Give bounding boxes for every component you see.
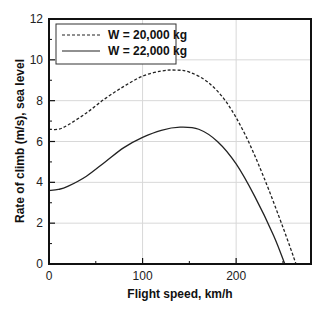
y-tick-label: 10 [30, 53, 44, 67]
x-tick-label: 100 [133, 269, 153, 283]
x-tick-label: 0 [46, 269, 53, 283]
y-tick-label: 8 [36, 94, 43, 108]
legend: W = 20,000 kg W = 22,000 kg [56, 24, 187, 64]
x-axis-title: Flight speed, km/h [127, 287, 232, 301]
legend-label-20000: W = 20,000 kg [108, 28, 187, 42]
y-tick-label: 4 [36, 175, 43, 189]
y-axis-title: Rate of climb (m/s), sea level [13, 59, 27, 223]
y-tick-label: 6 [36, 135, 43, 149]
series-line-20000kg [49, 70, 296, 264]
y-tick-label: 12 [30, 12, 44, 26]
x-tick-label: 200 [226, 269, 246, 283]
y-tick-label: 2 [36, 216, 43, 230]
y-tick-label: 0 [36, 257, 43, 271]
legend-label-22000: W = 22,000 kg [108, 44, 187, 58]
rate-of-climb-chart: 0246810120100200 W = 20,000 kg W = 22,00… [0, 0, 323, 309]
series-lines [49, 70, 296, 264]
series-line-22000kg [49, 127, 285, 264]
